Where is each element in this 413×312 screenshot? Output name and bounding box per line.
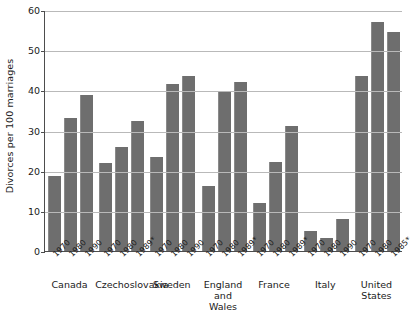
y-axis-tick-label: 30 (28, 127, 40, 137)
gridline (45, 172, 402, 173)
x-axis-group-label: Sweden (146, 279, 197, 290)
bar (80, 95, 93, 251)
gridline (45, 11, 402, 12)
plot-area: 0102030405060 (44, 11, 402, 252)
gridline (45, 51, 402, 52)
y-axis-tick-mark (41, 212, 45, 213)
bar (269, 162, 282, 251)
y-axis-tick-mark (41, 91, 45, 92)
bar (166, 84, 179, 251)
gridline (45, 91, 402, 92)
bar (371, 22, 384, 251)
x-axis-group-label: Canada (44, 279, 95, 290)
y-axis-tick-label: 60 (28, 6, 40, 16)
bar (387, 32, 400, 251)
bar (48, 176, 61, 251)
x-axis-group-label: United States (351, 279, 402, 301)
y-axis-tick-label: 0 (34, 247, 40, 257)
bar (182, 76, 195, 251)
bar (355, 76, 368, 251)
y-axis-tick-mark (41, 51, 45, 52)
y-axis-tick-mark (41, 172, 45, 173)
x-axis-group-label: France (249, 279, 300, 290)
y-axis-tick-label: 20 (28, 167, 40, 177)
y-axis-tick-label: 40 (28, 87, 40, 97)
bar (115, 147, 128, 251)
y-axis-tick-mark (41, 132, 45, 133)
bar (99, 163, 112, 251)
y-axis-title: Divorces per 100 marriages (2, 0, 16, 252)
x-axis-labels: 197019801990Canada197019801989*Czechoslo… (44, 253, 402, 304)
bar (285, 126, 298, 251)
y-axis-tick-label: 50 (28, 46, 40, 56)
gridline (45, 212, 402, 213)
bar (234, 82, 247, 251)
bar (131, 121, 144, 251)
x-axis-group-label: England and Wales (197, 279, 248, 312)
y-axis-tick-mark (41, 11, 45, 12)
gridline (45, 132, 402, 133)
bar (64, 118, 77, 251)
x-axis-group-label: Czechoslovakia (95, 279, 146, 290)
y-axis-tick-label: 10 (28, 207, 40, 217)
x-axis-group-label: Italy (300, 279, 351, 290)
